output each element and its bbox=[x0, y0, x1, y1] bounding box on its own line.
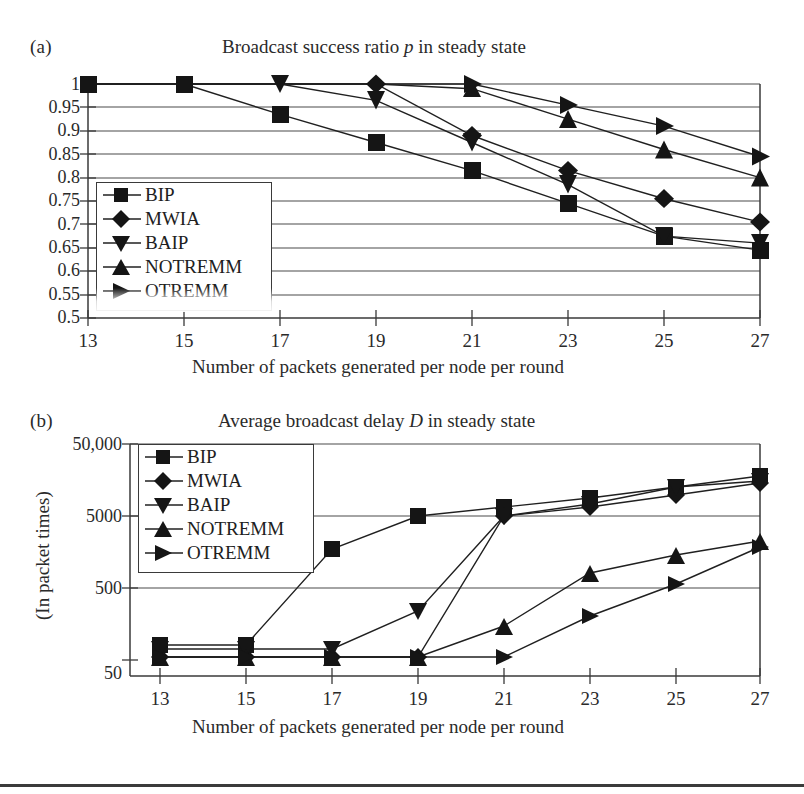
legend-item-bip[interactable]: BIP bbox=[139, 445, 313, 469]
legend-item-mwia[interactable]: MWIA bbox=[139, 469, 313, 493]
panel-b-xtick-4: 21 bbox=[474, 688, 534, 710]
marker-triangle-up bbox=[581, 565, 599, 582]
panel-b-xtick-6: 25 bbox=[646, 688, 706, 710]
legend-label-notremm: NOTREMM bbox=[187, 518, 284, 540]
figure-root: (a) Broadcast success ratio p in steady … bbox=[0, 0, 804, 794]
marker-triangle-down bbox=[409, 603, 427, 620]
legend-label-bip: BIP bbox=[187, 446, 217, 468]
legend-item-notremm[interactable]: NOTREMM bbox=[139, 517, 313, 541]
panel-b-legend: BIP MWIA BAIP bbox=[138, 444, 314, 573]
panel-b-xtick-5: 23 bbox=[560, 688, 620, 710]
marker-triangle-up bbox=[667, 547, 685, 564]
marker-triangle-up bbox=[495, 618, 513, 635]
marker-triangle-right bbox=[668, 576, 685, 592]
panel-b-xlabel: Number of packets generated per node per… bbox=[192, 716, 564, 738]
figure-bottom-rule bbox=[0, 784, 804, 787]
panel-b-xtick-0: 13 bbox=[130, 688, 190, 710]
legend-label-otremm: OTREMM bbox=[187, 542, 270, 564]
panel-b-xtick-2: 17 bbox=[302, 688, 362, 710]
marker-square bbox=[410, 508, 426, 524]
panel-b-plot bbox=[0, 0, 804, 760]
legend-marker-triangle-down bbox=[145, 495, 183, 515]
panel-b: (b) Average broadcast delay D in steady … bbox=[0, 0, 804, 794]
legend-marker-diamond bbox=[145, 471, 183, 491]
marker-triangle-right bbox=[582, 608, 599, 624]
marker-triangle-right bbox=[496, 649, 513, 665]
panel-b-xtick-3: 19 bbox=[388, 688, 448, 710]
legend-marker-triangle-right bbox=[145, 543, 183, 563]
legend-item-baip[interactable]: BAIP bbox=[139, 493, 313, 517]
marker-square bbox=[324, 541, 340, 557]
panel-b-xtick-1: 15 bbox=[216, 688, 276, 710]
legend-marker-triangle-up bbox=[145, 519, 183, 539]
legend-label-baip: BAIP bbox=[187, 494, 230, 516]
legend-marker-square bbox=[145, 447, 183, 467]
legend-label-mwia: MWIA bbox=[187, 470, 242, 492]
legend-item-otremm[interactable]: OTREMM bbox=[139, 541, 313, 565]
panel-b-xtick-7: 27 bbox=[730, 688, 790, 710]
